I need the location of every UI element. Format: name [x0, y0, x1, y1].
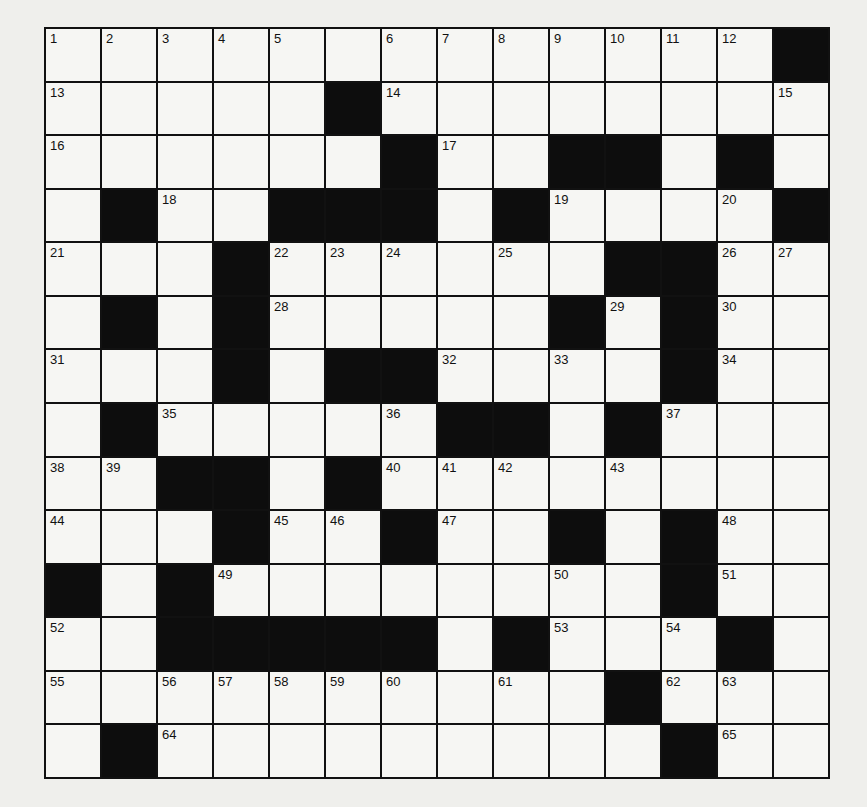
grid-cell[interactable]: 45	[270, 511, 324, 563]
grid-cell[interactable]: 54	[662, 618, 716, 670]
grid-cell[interactable]: 41	[438, 458, 492, 510]
grid-cell[interactable]	[774, 565, 828, 617]
grid-cell[interactable]	[606, 511, 660, 563]
grid-cell[interactable]	[550, 458, 604, 510]
grid-cell[interactable]: 40	[382, 458, 436, 510]
grid-cell[interactable]	[102, 136, 156, 188]
grid-cell[interactable]	[438, 297, 492, 349]
grid-cell[interactable]	[438, 565, 492, 617]
grid-cell[interactable]: 4	[214, 29, 268, 81]
grid-cell[interactable]	[158, 297, 212, 349]
grid-cell[interactable]	[438, 672, 492, 724]
grid-cell[interactable]	[46, 190, 100, 242]
grid-cell[interactable]	[326, 297, 380, 349]
grid-cell[interactable]: 52	[46, 618, 100, 670]
grid-cell[interactable]: 36	[382, 404, 436, 456]
grid-cell[interactable]	[438, 83, 492, 135]
grid-cell[interactable]	[382, 565, 436, 617]
grid-cell[interactable]: 47	[438, 511, 492, 563]
grid-cell[interactable]	[662, 190, 716, 242]
grid-cell[interactable]: 31	[46, 350, 100, 402]
grid-cell[interactable]: 3	[158, 29, 212, 81]
grid-cell[interactable]: 39	[102, 458, 156, 510]
grid-cell[interactable]	[270, 350, 324, 402]
grid-cell[interactable]	[494, 136, 548, 188]
grid-cell[interactable]	[214, 190, 268, 242]
grid-cell[interactable]: 24	[382, 243, 436, 295]
grid-cell[interactable]	[718, 458, 772, 510]
grid-cell[interactable]: 62	[662, 672, 716, 724]
grid-cell[interactable]: 64	[158, 725, 212, 777]
grid-cell[interactable]	[494, 511, 548, 563]
grid-cell[interactable]: 25	[494, 243, 548, 295]
grid-cell[interactable]	[270, 404, 324, 456]
grid-cell[interactable]: 26	[718, 243, 772, 295]
grid-cell[interactable]	[550, 83, 604, 135]
grid-cell[interactable]	[438, 243, 492, 295]
grid-cell[interactable]	[270, 725, 324, 777]
grid-cell[interactable]	[494, 725, 548, 777]
grid-cell[interactable]: 27	[774, 243, 828, 295]
grid-cell[interactable]	[774, 297, 828, 349]
grid-cell[interactable]	[662, 458, 716, 510]
grid-cell[interactable]	[774, 725, 828, 777]
grid-cell[interactable]	[158, 83, 212, 135]
grid-cell[interactable]	[662, 83, 716, 135]
grid-cell[interactable]	[606, 83, 660, 135]
grid-cell[interactable]	[550, 243, 604, 295]
grid-cell[interactable]: 21	[46, 243, 100, 295]
grid-cell[interactable]	[102, 350, 156, 402]
grid-cell[interactable]: 11	[662, 29, 716, 81]
grid-cell[interactable]	[158, 243, 212, 295]
grid-cell[interactable]	[494, 350, 548, 402]
grid-cell[interactable]	[774, 511, 828, 563]
grid-cell[interactable]: 5	[270, 29, 324, 81]
grid-cell[interactable]	[326, 29, 380, 81]
grid-cell[interactable]: 17	[438, 136, 492, 188]
grid-cell[interactable]	[438, 190, 492, 242]
grid-cell[interactable]: 10	[606, 29, 660, 81]
grid-cell[interactable]: 55	[46, 672, 100, 724]
grid-cell[interactable]	[270, 458, 324, 510]
grid-cell[interactable]: 48	[718, 511, 772, 563]
grid-cell[interactable]: 18	[158, 190, 212, 242]
grid-cell[interactable]: 23	[326, 243, 380, 295]
grid-cell[interactable]: 20	[718, 190, 772, 242]
grid-cell[interactable]	[102, 243, 156, 295]
grid-cell[interactable]: 43	[606, 458, 660, 510]
grid-cell[interactable]: 8	[494, 29, 548, 81]
grid-cell[interactable]: 12	[718, 29, 772, 81]
grid-cell[interactable]	[214, 404, 268, 456]
grid-cell[interactable]: 6	[382, 29, 436, 81]
grid-cell[interactable]	[270, 83, 324, 135]
grid-cell[interactable]	[550, 404, 604, 456]
grid-cell[interactable]	[158, 136, 212, 188]
grid-cell[interactable]	[214, 725, 268, 777]
grid-cell[interactable]	[774, 136, 828, 188]
grid-cell[interactable]	[606, 190, 660, 242]
grid-cell[interactable]: 49	[214, 565, 268, 617]
grid-cell[interactable]	[606, 725, 660, 777]
grid-cell[interactable]: 58	[270, 672, 324, 724]
grid-cell[interactable]: 44	[46, 511, 100, 563]
grid-cell[interactable]: 7	[438, 29, 492, 81]
grid-cell[interactable]	[326, 404, 380, 456]
grid-cell[interactable]	[438, 725, 492, 777]
grid-cell[interactable]: 19	[550, 190, 604, 242]
grid-cell[interactable]: 29	[606, 297, 660, 349]
grid-cell[interactable]	[662, 136, 716, 188]
grid-cell[interactable]	[718, 404, 772, 456]
grid-cell[interactable]	[718, 83, 772, 135]
grid-cell[interactable]	[326, 725, 380, 777]
grid-cell[interactable]	[102, 83, 156, 135]
grid-cell[interactable]: 1	[46, 29, 100, 81]
grid-cell[interactable]	[774, 458, 828, 510]
grid-cell[interactable]	[46, 404, 100, 456]
grid-cell[interactable]: 46	[326, 511, 380, 563]
grid-cell[interactable]	[102, 565, 156, 617]
grid-cell[interactable]	[46, 725, 100, 777]
grid-cell[interactable]	[102, 672, 156, 724]
grid-cell[interactable]: 2	[102, 29, 156, 81]
grid-cell[interactable]	[214, 83, 268, 135]
grid-cell[interactable]	[46, 297, 100, 349]
